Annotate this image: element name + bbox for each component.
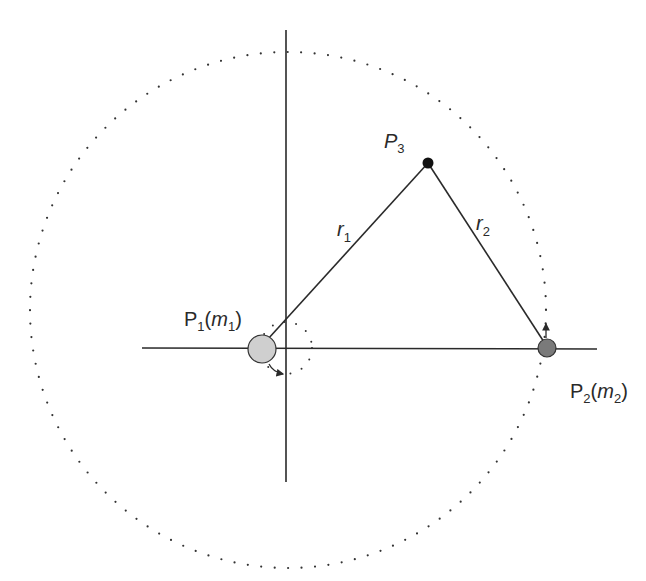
body-p2 <box>538 339 556 357</box>
p1-velocity-arrow-icon <box>269 364 283 374</box>
label-p2: P2(m2) <box>570 380 628 406</box>
r2-line <box>428 163 544 342</box>
body-p1 <box>248 335 276 363</box>
three-body-diagram: P1(m1) P2(m2) P3 r1 r2 <box>0 0 646 581</box>
label-p3: P3 <box>384 130 405 156</box>
label-p1: P1(m1) <box>184 308 242 334</box>
body-p3 <box>423 158 434 169</box>
orbit-circle <box>30 52 546 568</box>
horizontal-axis <box>142 348 597 349</box>
r1-line <box>268 163 428 339</box>
label-r1: r1 <box>337 218 351 245</box>
label-r2: r2 <box>476 212 490 239</box>
